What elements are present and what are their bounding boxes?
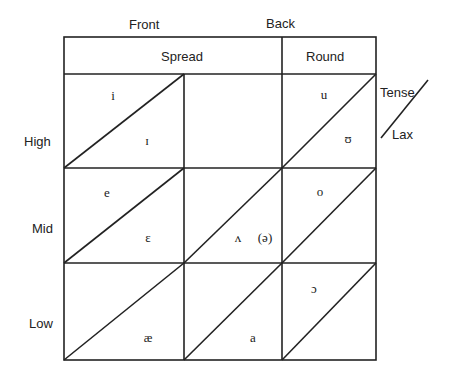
diagonal-low-back [282, 263, 376, 360]
diagonal-low-front [64, 263, 184, 360]
vowel-low-back-tense: ɔ [311, 282, 317, 295]
row-label-high: High [24, 135, 51, 148]
vowel-high-back-tense: u [321, 88, 328, 101]
vowel-mid-front-lax: ɛ [145, 231, 150, 244]
legend-lax: Lax [392, 128, 413, 141]
vowel-mid-central-schwa: (ə) [258, 231, 272, 244]
diagonal-high-front [64, 74, 184, 168]
header-spread: Spread [161, 50, 203, 63]
vowel-high-back-lax: ʊ [344, 132, 351, 145]
diagonal-mid-front [64, 168, 184, 263]
vowel-low-central-lax: a [250, 331, 256, 344]
diagonal-mid-back [282, 168, 376, 263]
vowel-mid-central-lax: ʌ [235, 231, 242, 244]
header-front: Front [129, 18, 159, 31]
vowel-mid-front-tense: e [104, 186, 110, 199]
header-back: Back [266, 17, 295, 30]
vowel-high-front-tense: i [111, 89, 115, 102]
vowel-mid-back-tense: o [317, 185, 324, 198]
vowel-chart-grid [0, 0, 452, 380]
vowel-chart: Front Back Spread Round High Mid Low Ten… [0, 0, 452, 380]
diagonal-mid-central [184, 168, 282, 263]
row-label-mid: Mid [32, 222, 53, 235]
row-label-low: Low [29, 317, 53, 330]
header-round: Round [306, 50, 344, 63]
vowel-low-front-lax: æ [144, 331, 153, 344]
legend-tense: Tense [380, 86, 415, 99]
diagonal-high-back [282, 74, 376, 168]
vowel-high-front-lax: ɪ [145, 134, 149, 147]
diagonal-low-central [184, 263, 282, 360]
